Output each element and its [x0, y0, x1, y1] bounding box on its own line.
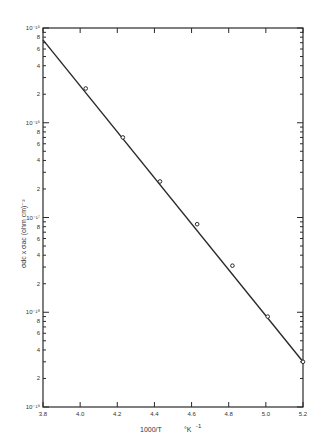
y-minor-label: 4 [37, 63, 41, 69]
axes-box [43, 28, 303, 407]
y-minor-label: 2 [37, 281, 41, 287]
x-axis-unit: °K [184, 426, 192, 433]
data-point [121, 136, 125, 140]
y-minor-label: 4 [37, 157, 41, 163]
y-minor-label: 2 [37, 91, 41, 97]
x-axis-label: 1000/T [140, 426, 163, 433]
y-minor-label: 6 [37, 46, 41, 52]
y-minor-label: 8 [37, 318, 41, 324]
y-minor-label: 6 [37, 330, 41, 336]
data-point [158, 180, 162, 184]
regression-line [43, 40, 303, 362]
y-decade-label: 10⁻¹⁹ [26, 404, 41, 410]
y-minor-label: 2 [37, 186, 41, 192]
x-axis-ticks: 3.84.04.24.44.64.85.05.2 [39, 28, 308, 417]
x-axis-unit-exp: -1 [196, 423, 202, 429]
y-minor-label: 8 [37, 129, 41, 135]
data-point [231, 264, 235, 268]
y-decade-label: 10⁻¹⁵ [26, 25, 41, 31]
data-point [195, 222, 199, 226]
x-tick-label: 3.8 [39, 411, 48, 417]
y-axis-ticks: 10⁻¹⁹246810⁻¹⁸246810⁻¹⁷246810⁻¹⁶246810⁻¹… [26, 25, 303, 410]
x-tick-label: 4.2 [113, 411, 122, 417]
y-minor-label: 6 [37, 236, 41, 242]
y-minor-label: 8 [37, 34, 41, 40]
chart: 3.84.04.24.44.64.85.05.2 10⁻¹⁹246810⁻¹⁸2… [0, 0, 325, 444]
y-minor-label: 2 [37, 375, 41, 381]
fit-line [43, 40, 303, 362]
x-tick-label: 5.0 [262, 411, 271, 417]
data-point [266, 315, 270, 319]
y-minor-label: 4 [37, 347, 41, 353]
y-decade-label: 10⁻¹⁸ [26, 309, 41, 315]
y-decade-label: 10⁻¹⁶ [26, 120, 41, 126]
y-minor-label: 6 [37, 141, 41, 147]
x-tick-label: 4.6 [187, 411, 196, 417]
x-tick-label: 5.2 [299, 411, 308, 417]
x-tick-label: 4.4 [150, 411, 159, 417]
x-tick-label: 4.0 [76, 411, 85, 417]
y-minor-label: 4 [37, 252, 41, 258]
x-tick-label: 4.8 [225, 411, 234, 417]
data-point [84, 87, 88, 91]
y-axis-label: σdc x σac (ohm cm)⁻² [20, 199, 28, 268]
plot-frame [43, 28, 303, 407]
y-decade-label: 10⁻¹⁷ [26, 215, 40, 221]
data-point [301, 360, 305, 364]
y-minor-label: 8 [37, 224, 41, 230]
